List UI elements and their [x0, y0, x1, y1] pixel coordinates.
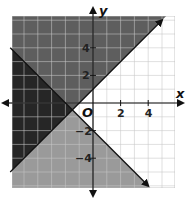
y-tick-label: 2: [82, 69, 90, 82]
y-tick-label: −4: [75, 152, 92, 165]
inequality-graph: x y O 2442−2−4: [0, 0, 188, 199]
y-axis-label: y: [99, 3, 108, 18]
shaded-regions: [0, 0, 188, 199]
y-tick-label: 4: [82, 42, 90, 55]
origin-label: O: [82, 105, 93, 120]
x-tick-label: 2: [117, 107, 125, 120]
x-axis-label: x: [175, 86, 185, 101]
x-tick-label: 4: [145, 107, 153, 120]
y-tick-label: −2: [75, 125, 92, 138]
